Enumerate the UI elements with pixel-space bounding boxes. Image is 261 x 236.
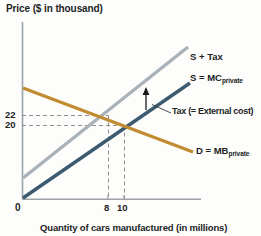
y-tick-label-20: 20 <box>5 120 16 130</box>
curve-label-supply-subscript: private <box>222 77 243 84</box>
x-axis-title: Quantity of cars manufactured (in millio… <box>40 223 227 233</box>
curve-label-supply-main: S = MC <box>190 72 222 83</box>
curve-label-supply-plus-tax: S + Tax <box>190 52 223 62</box>
y-axis-title: Price ($ in thousand) <box>6 4 103 14</box>
curve-label-demand-private: D = MBprivate <box>196 146 249 156</box>
economics-supply-demand-chart: Price ($ in thousand) Quantity of cars m… <box>0 0 261 236</box>
curve-supply-plus-tax <box>23 47 188 178</box>
curve-label-demand-subscript: private <box>228 150 249 157</box>
origin-tick-label: 0 <box>15 203 21 213</box>
x-tick-label-10: 10 <box>117 203 128 213</box>
curve-label-supply-private: S = MCprivate <box>190 73 243 83</box>
curve-label-demand-main: D = MB <box>196 145 228 156</box>
tax-callout-label: Tax (= External cost) <box>172 107 253 116</box>
tax-wedge-arrow-icon <box>143 87 150 110</box>
x-tick-label-8: 8 <box>104 203 109 213</box>
chart-canvas <box>0 0 261 236</box>
